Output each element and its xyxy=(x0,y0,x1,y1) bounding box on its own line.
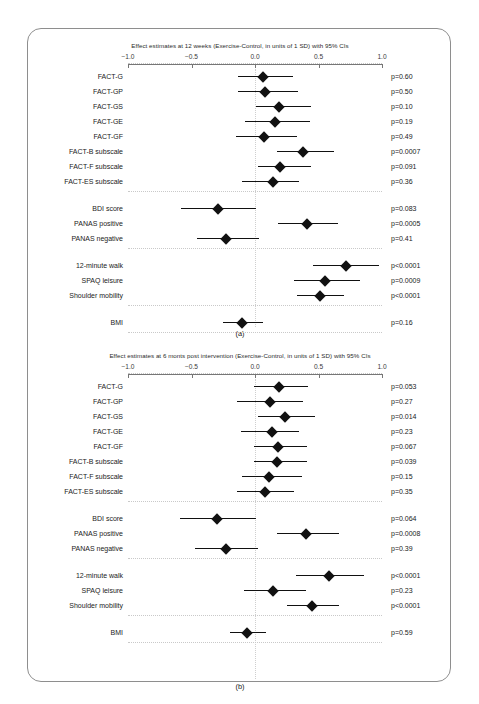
point-estimate-marker xyxy=(220,543,231,554)
group-separator xyxy=(128,642,382,644)
p-value-label: p=0.15 xyxy=(391,469,413,484)
forest-row: FACT-GFp=0.49 xyxy=(28,129,452,144)
forest-row-label: 12-minute walk xyxy=(28,258,123,273)
p-value-label: p=0.59 xyxy=(391,625,413,640)
forest-row-label: FACT-F subscale xyxy=(28,469,123,484)
x-tick-mark xyxy=(382,374,383,378)
point-estimate-marker xyxy=(306,600,317,611)
forest-row: FACT-GSp=0.014 xyxy=(28,409,452,424)
point-estimate-marker xyxy=(263,471,274,482)
p-value-label: p=0.064 xyxy=(391,511,417,526)
figure-bottom-caption xyxy=(40,690,460,700)
forest-row-label: BDI score xyxy=(28,201,123,216)
p-value-label: p=0.41 xyxy=(391,231,413,246)
p-value-label: p=0.053 xyxy=(391,379,417,394)
forest-row-label: FACT-B subscale xyxy=(28,454,123,469)
forest-row-label: SPAQ leisure xyxy=(28,583,123,598)
forest-row-label: PANAS positive xyxy=(28,526,123,541)
forest-row: FACT-GEp=0.19 xyxy=(28,114,452,129)
point-estimate-marker xyxy=(266,426,277,437)
x-tick-label: 0.5 xyxy=(314,53,323,60)
forest-row-label: BMI xyxy=(28,625,123,640)
group-separator xyxy=(128,332,382,334)
point-estimate-marker xyxy=(280,411,291,422)
forest-row-label: FACT-GF xyxy=(28,439,123,454)
forest-row: FACT-GFp=0.067 xyxy=(28,439,452,454)
panel-b-title: Effect estimates at 6 monts post interve… xyxy=(28,352,452,359)
p-value-label: p=0.35 xyxy=(391,484,413,499)
forest-row-label: FACT-GE xyxy=(28,114,123,129)
point-estimate-marker xyxy=(270,116,281,127)
point-estimate-marker xyxy=(298,146,309,157)
p-value-label: p=0.10 xyxy=(391,99,413,114)
point-estimate-marker xyxy=(212,203,223,214)
x-tick-label: 0.0 xyxy=(250,363,259,370)
forest-row: PANAS positivep=0.0005 xyxy=(28,216,452,231)
forest-row-label: FACT-ES subscale xyxy=(28,174,123,189)
point-estimate-marker xyxy=(300,528,311,539)
forest-row: Shoulder mobilityp<0.0001 xyxy=(28,288,452,303)
p-value-label: p=0.0009 xyxy=(391,273,420,288)
forest-row-label: FACT-GP xyxy=(28,394,123,409)
p-value-label: p<0.0001 xyxy=(391,258,420,273)
point-estimate-marker xyxy=(301,218,312,229)
forest-row: PANAS positivep=0.0008 xyxy=(28,526,452,541)
forest-row-label: FACT-GF xyxy=(28,129,123,144)
forest-row-label: PANAS negative xyxy=(28,231,123,246)
forest-row: FACT-F subscalep=0.15 xyxy=(28,469,452,484)
p-value-label: p=0.014 xyxy=(391,409,417,424)
forest-row: FACT-F subscalep=0.091 xyxy=(28,159,452,174)
forest-row: BDI scorep=0.083 xyxy=(28,201,452,216)
forest-row-label: FACT-GP xyxy=(28,84,123,99)
point-estimate-marker xyxy=(257,71,268,82)
p-value-label: p=0.0005 xyxy=(391,216,420,231)
forest-row: FACT-B subscalep=0.0007 xyxy=(28,144,452,159)
forest-row: FACT-B subscalep=0.039 xyxy=(28,454,452,469)
forest-row: PANAS negativep=0.39 xyxy=(28,541,452,556)
panel-a-title: Effect estimates at 12 weeks (Exercise-C… xyxy=(28,42,452,49)
forest-row: FACT-GEp=0.23 xyxy=(28,424,452,439)
forest-row: FACT-ES subscalep=0.36 xyxy=(28,174,452,189)
forest-row-label: BMI xyxy=(28,315,123,330)
group-separator xyxy=(128,373,382,375)
p-value-label: p=0.067 xyxy=(391,439,417,454)
point-estimate-marker xyxy=(259,486,270,497)
p-value-label: p=0.083 xyxy=(391,201,417,216)
point-estimate-marker xyxy=(258,131,269,142)
forest-row: FACT-Gp=0.053 xyxy=(28,379,452,394)
p-value-label: p=0.50 xyxy=(391,84,413,99)
point-estimate-marker xyxy=(272,441,283,452)
x-tick-label: −1.0 xyxy=(121,53,134,60)
forest-row-label: FACT-GS xyxy=(28,99,123,114)
forest-row-label: FACT-G xyxy=(28,69,123,84)
forest-row-label: BDI score xyxy=(28,511,123,526)
x-tick-label: 1.0 xyxy=(377,363,386,370)
forest-row: SPAQ leisurep=0.0009 xyxy=(28,273,452,288)
forest-row-label: FACT-B subscale xyxy=(28,144,123,159)
point-estimate-marker xyxy=(237,317,248,328)
forest-row: FACT-Gp=0.60 xyxy=(28,69,452,84)
group-separator xyxy=(128,615,382,617)
x-tick-label: −0.5 xyxy=(185,53,198,60)
forest-row: SPAQ leisurep=0.23 xyxy=(28,583,452,598)
p-value-label: p<0.0001 xyxy=(391,568,420,583)
p-value-label: p<0.0001 xyxy=(391,598,420,613)
point-estimate-marker xyxy=(273,381,284,392)
point-estimate-marker xyxy=(271,456,282,467)
point-estimate-marker xyxy=(273,101,284,112)
forest-row-label: Shoulder mobility xyxy=(28,598,123,613)
forest-row-label: FACT-F subscale xyxy=(28,159,123,174)
p-value-label: p=0.49 xyxy=(391,129,413,144)
forest-row-label: FACT-ES subscale xyxy=(28,484,123,499)
forest-row-label: PANAS negative xyxy=(28,541,123,556)
point-estimate-marker xyxy=(242,627,253,638)
point-estimate-marker xyxy=(323,570,334,581)
point-estimate-marker xyxy=(341,260,352,271)
forest-row: BMIp=0.59 xyxy=(28,625,452,640)
forest-row: FACT-GPp=0.50 xyxy=(28,84,452,99)
forest-row: PANAS negativep=0.41 xyxy=(28,231,452,246)
x-tick-label: 0.5 xyxy=(314,363,323,370)
group-separator xyxy=(128,191,382,193)
forest-row-label: FACT-GE xyxy=(28,424,123,439)
point-estimate-marker xyxy=(275,161,286,172)
